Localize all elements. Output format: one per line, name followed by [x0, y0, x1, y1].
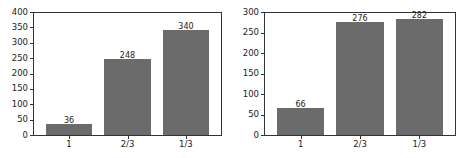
chart-right: 6612762/32821/3050100150200250300	[0, 0, 466, 158]
y-tick-label: 300	[231, 8, 259, 17]
bar	[336, 22, 384, 135]
y-tick-mark	[261, 115, 264, 116]
y-tick-mark	[261, 74, 264, 75]
bar	[396, 19, 444, 135]
x-tick-label: 1	[286, 140, 316, 149]
bar	[277, 108, 325, 135]
y-tick-mark	[261, 94, 264, 95]
y-tick-label: 50	[231, 110, 259, 119]
y-tick-mark	[261, 33, 264, 34]
y-tick-mark	[261, 12, 264, 13]
y-tick-label: 150	[231, 69, 259, 78]
y-tick-label: 250	[231, 28, 259, 37]
y-tick-mark	[261, 53, 264, 54]
x-tick-label: 2/3	[345, 140, 375, 149]
bar-value-label: 282	[399, 12, 439, 20]
plot-area	[264, 12, 456, 136]
y-tick-label: 0	[231, 131, 259, 140]
bar-value-label: 276	[340, 15, 380, 23]
x-tick-label: 1/3	[404, 140, 434, 149]
y-tick-label: 200	[231, 49, 259, 58]
bar-value-label: 66	[281, 101, 321, 109]
y-tick-label: 100	[231, 90, 259, 99]
y-tick-mark	[261, 135, 264, 136]
